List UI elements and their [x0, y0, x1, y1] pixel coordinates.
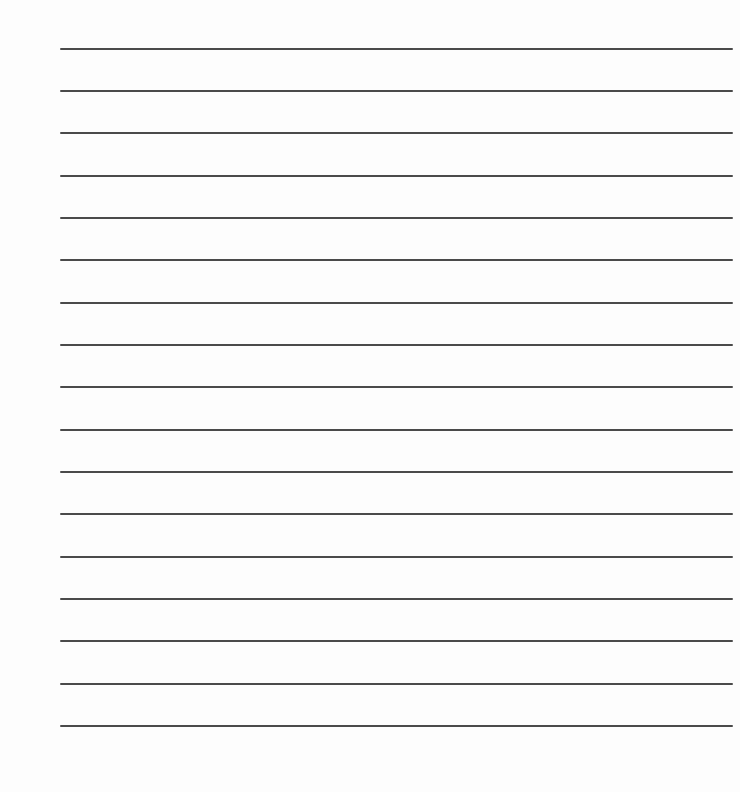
ruled-line — [60, 683, 733, 685]
ruled-line — [60, 640, 733, 642]
ruled-line — [60, 386, 733, 388]
ruled-line — [60, 90, 733, 92]
ruled-line — [60, 556, 733, 558]
ruled-line — [60, 132, 733, 134]
ruled-line — [60, 344, 733, 346]
ruled-line — [60, 302, 733, 304]
lined-paper-page — [0, 0, 740, 792]
ruled-line — [60, 48, 733, 50]
ruled-line — [60, 429, 733, 431]
ruled-line — [60, 513, 733, 515]
ruled-line — [60, 725, 733, 727]
ruled-line — [60, 471, 733, 473]
ruled-line — [60, 175, 733, 177]
ruled-line — [60, 259, 733, 261]
ruled-line — [60, 598, 733, 600]
ruled-line — [60, 217, 733, 219]
